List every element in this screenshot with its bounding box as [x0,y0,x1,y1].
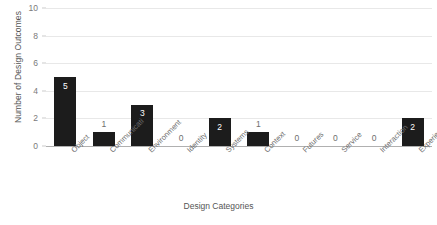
y-axis-tick-mark [42,8,46,9]
bar-value-label: 3 [140,109,145,118]
bar-series: 5130210002 [46,8,432,146]
x-axis-tick-label: Experience [417,148,423,154]
x-axis-tick-label: Systems [224,148,230,154]
bar-value-label: 0 [372,134,377,143]
y-axis-tick-mark [42,90,46,91]
bar-slot: 0 [316,8,355,146]
bar-chart: Number of Design Outcomes 5130210002 024… [0,0,437,225]
bar-slot: 5 [46,8,85,146]
bar-slot: 0 [278,8,317,146]
y-axis-tick-mark [42,35,46,36]
bar-slot: 1 [85,8,124,146]
x-axis-tick-label: Identity [185,148,191,154]
bar-value-label: 0 [295,134,300,143]
bar-value-label: 5 [63,82,68,91]
x-axis-title: Design Categories [0,201,437,211]
x-axis-tick-label: Context [262,148,268,154]
y-axis-tick-label: 4 [14,86,38,96]
y-axis-tick-label: 8 [14,31,38,41]
y-axis-tick-mark [42,63,46,64]
x-axis-tick-label: Futures [301,148,307,154]
plot-area: 5130210002 [46,8,432,146]
bar-value-label: 2 [217,123,222,132]
bar-value-label: 1 [256,120,261,129]
y-axis-tick-mark [42,146,46,147]
bar-value-label: 2 [410,123,415,132]
y-axis-tick-mark [42,118,46,119]
y-axis-tick-label: 0 [14,141,38,151]
x-axis-tick-labels: ObjectCommunicatiEnvironmentIdentitySyst… [46,148,432,194]
x-axis-tick-label: Environment [147,148,153,154]
y-axis-tick-label: 2 [14,113,38,123]
bar-slot: 0 [355,8,394,146]
y-axis-tick-label: 10 [14,3,38,13]
x-axis-line [46,146,432,147]
y-axis-tick-label: 6 [14,58,38,68]
bar-value-label: 1 [102,120,107,129]
x-axis-tick-label: Service [340,148,346,154]
x-axis-tick-label: Object [69,148,75,154]
x-axis-tick-label: Interaction [378,148,384,154]
bar-value-label: 0 [333,134,338,143]
bar-slot: 2 [200,8,239,146]
x-axis-tick-label: Communicati [108,148,114,154]
bar-slot: 1 [239,8,278,146]
bar-value-label: 0 [179,134,184,143]
